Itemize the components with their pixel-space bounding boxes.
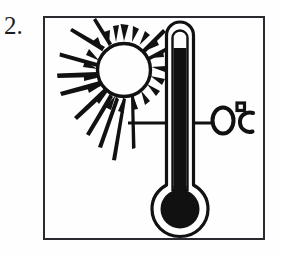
exercise-number: 2. [4,13,23,38]
worksheet-figure-page: 2. [0,0,282,258]
figure-frame [43,16,265,240]
